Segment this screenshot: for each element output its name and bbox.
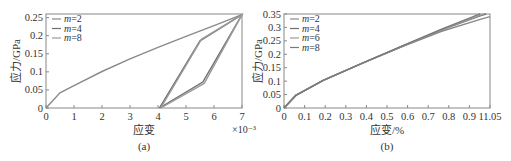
figure: 0123456700.050.10.150.20.25m=2m=4m=8应力/G… xyxy=(0,0,511,161)
x-axis-multiplier: ×10⁻³ xyxy=(232,124,256,135)
x-tick-label: 3 xyxy=(127,111,132,122)
y-tick-label: 0.2 xyxy=(268,49,281,60)
x-axis-label: 应变 xyxy=(133,123,155,136)
chart-panel-b: 00.10.20.30.40.50.60.70.80.911.0500.050.… xyxy=(251,9,502,154)
x-tick-label: 7 xyxy=(239,111,244,122)
chart-panel-a: 0123456700.050.10.150.20.25m=2m=4m=8应力/G… xyxy=(9,12,256,153)
y-tick-label: 0 xyxy=(38,103,43,114)
x-tick-label: 0.8 xyxy=(442,111,455,122)
y-axis-label: 应力/GPa xyxy=(251,39,264,83)
y-tick-label: 0.1 xyxy=(268,76,281,87)
y-tick-label: 0.3 xyxy=(268,22,281,33)
panel-label: (a) xyxy=(138,140,151,153)
y-tick-label: 0.15 xyxy=(263,62,281,73)
y-tick-label: 0.25 xyxy=(263,35,281,46)
x-axis-label: 应变/% xyxy=(370,123,404,136)
x-tick-label: 0.1 xyxy=(298,111,311,122)
y-tick-label: 0.35 xyxy=(263,9,281,20)
x-tick-label: 1 xyxy=(71,111,76,122)
x-tick-label: 0.7 xyxy=(422,111,435,122)
x-tick-label: 0.6 xyxy=(401,111,414,122)
x-tick-label: 4 xyxy=(155,111,161,122)
legend-label: m=8 xyxy=(64,32,82,43)
x-tick-label: 0.4 xyxy=(360,111,374,122)
y-tick-label: 0.05 xyxy=(25,84,43,95)
y-tick-label: 0 xyxy=(276,103,281,114)
x-tick-label: 0.3 xyxy=(339,111,352,122)
y-axis-label: 应力/GPa xyxy=(9,39,22,83)
y-tick-label: 0.2 xyxy=(30,30,43,41)
x-tick-label: 6 xyxy=(211,111,216,122)
x-tick-label: 2 xyxy=(99,111,104,122)
x-tick-label: 0 xyxy=(281,111,286,122)
y-tick-label: 0.25 xyxy=(25,12,43,23)
y-tick-label: 0.1 xyxy=(30,66,43,77)
x-tick-label: 0.2 xyxy=(319,111,332,122)
panel-label: (b) xyxy=(381,140,394,153)
x-tick-label: 5 xyxy=(183,111,188,122)
y-tick-label: 0.05 xyxy=(263,89,281,100)
x-tick-label: 0 xyxy=(43,111,48,122)
series-line-m-8 xyxy=(161,15,242,108)
legend-label: m=8 xyxy=(302,42,320,53)
series-line-m-4 xyxy=(159,15,242,108)
y-tick-label: 0.15 xyxy=(25,48,43,59)
x-tick-label: 11.05 xyxy=(478,111,501,122)
x-tick-label: 0.5 xyxy=(380,111,393,122)
x-tick-label: 0.9 xyxy=(463,111,476,122)
